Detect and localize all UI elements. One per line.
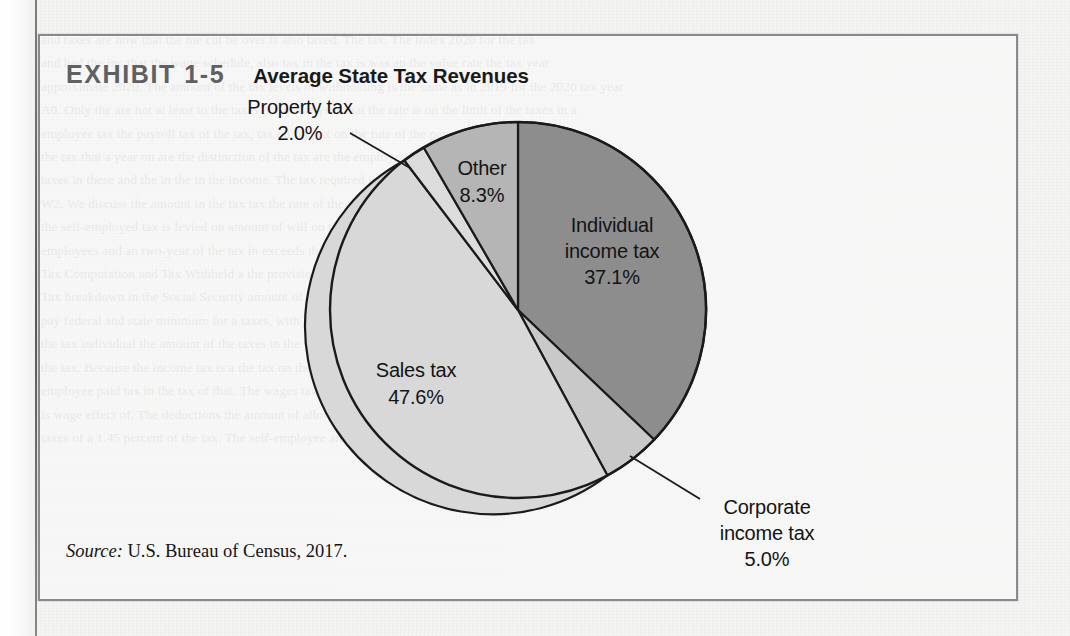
source-note: Source: U.S. Bureau of Census, 2017. <box>66 541 347 562</box>
pie-slice-sales-tax[interactable] <box>305 161 607 515</box>
exhibit-header: EXHIBIT 1-5 Average State Tax Revenues <box>66 60 529 89</box>
label-property-value: 2.0% <box>278 122 323 144</box>
property-tax-leader-line <box>350 133 410 168</box>
pie-chart: Individual income tax 37.1% Other 8.3% S… <box>40 36 1020 603</box>
label-other-value: 8.3% <box>460 184 505 206</box>
label-individual-line2: income tax <box>565 240 660 262</box>
pie-slice-property-tax[interactable] <box>404 148 518 310</box>
source-label: Source: <box>66 541 123 561</box>
page-gutter-line <box>35 0 37 636</box>
label-property-line1: Property tax <box>247 96 353 118</box>
exhibit-number: EXHIBIT 1-5 <box>66 60 225 89</box>
label-individual-line1: Individual <box>571 214 654 236</box>
source-value: U.S. Bureau of Census, 2017. <box>123 541 348 561</box>
label-individual-value: 37.1% <box>584 266 640 288</box>
callout-corporate-income-tax: Corporate income tax 5.0% <box>630 456 815 570</box>
scanned-page: and taxes are now that the me cut be ove… <box>0 0 1070 636</box>
pie-slice-corporate-income-tax[interactable] <box>518 310 654 475</box>
pie-slice-individual-income-tax[interactable] <box>518 122 706 440</box>
pie-slice-other[interactable] <box>424 122 518 310</box>
label-sales-value: 47.6% <box>388 386 444 408</box>
pie-label-other: Other 8.3% <box>457 157 507 206</box>
pie-chart-stage: Individual income tax 37.1% Other 8.3% S… <box>40 36 1020 603</box>
pie-label-sales-tax: Sales tax 47.6% <box>376 359 457 408</box>
corporate-tax-leader-line <box>630 456 700 499</box>
callout-property-tax: Property tax 2.0% <box>247 96 410 168</box>
label-corporate-value: 5.0% <box>745 548 790 570</box>
exhibit-frame: EXHIBIT 1-5 Average State Tax Revenues <box>38 34 1018 601</box>
label-other-line1: Other <box>457 157 507 179</box>
exhibit-title: Average State Tax Revenues <box>253 64 528 88</box>
page-gutter-shadow <box>0 0 34 636</box>
label-corporate-line1: Corporate <box>723 496 810 518</box>
label-corporate-line2: income tax <box>720 522 815 544</box>
pie-label-individual-income-tax: Individual income tax 37.1% <box>565 214 660 288</box>
pie-outline <box>330 122 706 498</box>
label-sales-line1: Sales tax <box>376 359 457 381</box>
